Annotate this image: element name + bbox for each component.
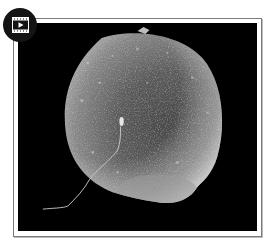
- egg-surface-fragment: [138, 27, 150, 34]
- play-triangle-icon: [18, 22, 23, 28]
- sperm-head: [119, 117, 123, 126]
- video-badge[interactable]: [3, 8, 37, 42]
- egg-cell: [58, 23, 237, 212]
- media-frame: [13, 18, 262, 237]
- sem-egg-sperm-image[interactable]: [18, 23, 257, 231]
- egg-cell-illustration: [18, 23, 257, 231]
- film-play-icon: [12, 17, 29, 33]
